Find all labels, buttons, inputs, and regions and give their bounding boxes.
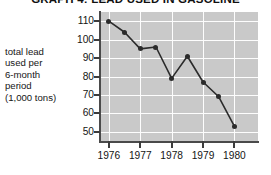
data-series-line: [0, 0, 271, 175]
data-point-marker: [122, 30, 127, 35]
data-point-marker: [185, 54, 190, 59]
data-point-marker: [169, 76, 174, 81]
data-point-marker: [201, 80, 206, 85]
chart-figure: GRAPH 4: LEAD USED IN GASOLINE total lea…: [0, 0, 271, 175]
data-point-marker: [232, 124, 237, 129]
